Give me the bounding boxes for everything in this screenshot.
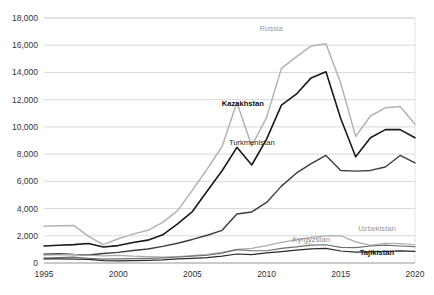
x-tick-label: 2020 <box>406 269 425 279</box>
y-tick-label: 4,000 <box>17 204 39 214</box>
y-tick-label: 8,000 <box>17 149 39 159</box>
series-label-tajikistan: Tajikistan <box>360 248 395 257</box>
x-tick-label: 2005 <box>183 269 202 279</box>
series-label-russia: Russia <box>259 24 283 33</box>
series-label-turkmenistan: Turkmenistan <box>229 138 275 147</box>
y-tick-label: 0 <box>33 258 38 268</box>
series-line-turkmenistan <box>44 155 415 255</box>
y-tick-label: 18,000 <box>12 13 38 23</box>
series-label-uzbekistan: Uzbekistan <box>358 224 396 233</box>
x-tick-label: 2010 <box>257 269 276 279</box>
y-tick-label: 14,000 <box>12 67 38 77</box>
y-axis-tick-labels: 02,0004,0006,0008,00010,00012,00014,0001… <box>12 13 38 268</box>
series-inline-labels: RussiaKazakhstanTurkmenistanUzbekistanKy… <box>222 24 396 257</box>
y-tick-label: 10,000 <box>12 122 38 132</box>
chart-canvas: 02,0004,0006,0008,00010,00012,00014,0001… <box>0 0 434 295</box>
y-tick-label: 12,000 <box>12 95 38 105</box>
series-label-kyrgyzstan: Kyrgyzstan <box>292 235 330 244</box>
multi-series-line-chart: 02,0004,0006,0008,00010,00012,00014,0001… <box>0 0 434 295</box>
x-tick-label: 2000 <box>109 269 128 279</box>
x-axis-tick-labels: 199520002005201020152020 <box>35 269 425 279</box>
x-tick-label: 2015 <box>331 269 350 279</box>
x-tick-label: 1995 <box>35 269 54 279</box>
y-tick-label: 6,000 <box>17 176 39 186</box>
series-label-kazakhstan: Kazakhstan <box>222 99 265 108</box>
series-line-kazakhstan <box>44 72 415 247</box>
y-tick-label: 16,000 <box>12 40 38 50</box>
y-tick-label: 2,000 <box>17 231 39 241</box>
